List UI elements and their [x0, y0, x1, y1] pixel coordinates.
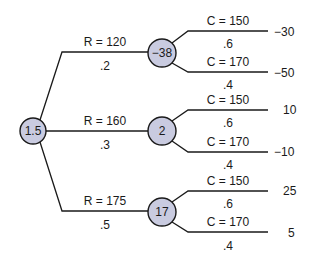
outcome-payoff: −10 — [274, 146, 294, 158]
outcome-probability: .6 — [223, 38, 233, 50]
edge-n2-c150 — [172, 110, 268, 121]
outcome-payoff: 10 — [283, 104, 296, 116]
root-node-value: 1.5 — [25, 125, 42, 137]
outcome-probability: .6 — [223, 117, 233, 129]
node-r175-value: 17 — [155, 206, 168, 218]
branch-label: R = 160 — [84, 115, 126, 127]
edge-n1-c150 — [172, 31, 268, 43]
branch-probability: .5 — [100, 219, 110, 231]
outcome-label: C = 150 — [207, 15, 249, 27]
branch-label: R = 175 — [84, 195, 126, 207]
outcome-payoff: 5 — [288, 227, 295, 239]
outcome-payoff: 25 — [283, 185, 296, 197]
node-r160-value: 2 — [159, 125, 166, 137]
outcome-probability: .6 — [223, 198, 233, 210]
branch-probability: .3 — [100, 139, 110, 151]
outcome-label: C = 170 — [207, 136, 249, 148]
outcome-probability: .4 — [223, 79, 233, 91]
tree-lines — [0, 0, 310, 266]
outcome-label: C = 150 — [207, 94, 249, 106]
edge-n3-c150 — [172, 191, 268, 202]
branch-label: R = 120 — [84, 36, 126, 48]
outcome-probability: .4 — [223, 240, 233, 252]
outcome-payoff: −50 — [274, 67, 294, 79]
edge-root-r120 — [40, 52, 148, 120]
outcome-payoff: −30 — [274, 26, 294, 38]
outcome-label: C = 150 — [207, 175, 249, 187]
node-r120-value: −38 — [152, 47, 172, 59]
outcome-label: C = 170 — [207, 56, 249, 68]
outcome-label: C = 170 — [207, 216, 249, 228]
branch-probability: .2 — [100, 60, 110, 72]
outcome-probability: .4 — [223, 159, 233, 171]
